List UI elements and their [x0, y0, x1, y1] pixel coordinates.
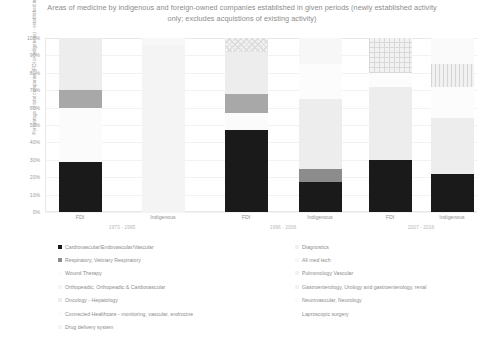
bar-segment[interactable]	[59, 38, 102, 90]
legend-swatch-icon	[58, 271, 62, 275]
legend-swatch-icon	[58, 298, 62, 302]
bar-segment[interactable]	[225, 130, 268, 212]
legend-swatch-icon	[295, 271, 299, 275]
legend-swatch-icon	[58, 312, 62, 316]
bar-segment[interactable]	[59, 108, 102, 162]
chart-legend: Cardiovascular/Endovascular/VascularResp…	[58, 240, 478, 336]
legend-label: Respiratory, Vetinary Respiratory	[65, 257, 141, 263]
legend-label: Diagnostics	[302, 244, 329, 250]
legend-item[interactable]: Drug delivery system	[58, 320, 298, 333]
y-tick-label: 100%	[27, 35, 40, 41]
legend-swatch-icon	[295, 245, 299, 249]
legend-item[interactable]: Neurovascular, Neurology	[295, 294, 484, 307]
legend-label: Drug delivery system	[65, 324, 113, 330]
legend-label: Orthopeadic, Orthopeadic & Cardiovascula…	[65, 284, 165, 290]
y-tick-label: 50%	[30, 122, 40, 128]
legend-item[interactable]: Wound Therapy	[58, 267, 298, 280]
legend-label: Neurovascular, Neurology	[302, 297, 362, 303]
legend-column-right: DiagnosticsAll med techPulmonology Vascu…	[295, 240, 484, 320]
bar-segment[interactable]	[431, 118, 474, 174]
y-tick-label: 80%	[30, 70, 40, 76]
bar-segment[interactable]	[299, 99, 342, 169]
legend-column-left: Cardiovascular/Endovascular/VascularResp…	[58, 240, 298, 334]
x-tick-label: Indigenous	[417, 214, 484, 220]
x-axis-period-labels: 1973 - 19951996 - 20062007 - 2016	[45, 224, 477, 236]
legend-swatch-icon	[58, 325, 62, 329]
x-tick-label: Indigenous	[128, 214, 198, 220]
bar-stack[interactable]	[59, 38, 102, 212]
legend-label: All med tech	[302, 257, 331, 263]
y-axis-ticks: 0%10%20%30%40%50%60%70%80%90%100%	[0, 38, 44, 212]
legend-swatch-icon	[58, 245, 62, 249]
bar-segment[interactable]	[369, 87, 412, 160]
bar-segment[interactable]	[299, 182, 342, 212]
bar-segment[interactable]	[225, 52, 268, 94]
legend-swatch-icon	[295, 258, 299, 262]
legend-item[interactable]: Diagnostics	[295, 240, 484, 253]
x-tick-label: FDI	[355, 214, 425, 220]
bar-segment[interactable]	[369, 73, 412, 87]
y-tick-label: 0%	[33, 209, 40, 215]
legend-item[interactable]: Connected Healthcare - monitoring, vascu…	[58, 307, 298, 320]
bar-segment[interactable]	[369, 38, 412, 73]
grid-line	[45, 212, 477, 213]
legend-label: Connected Healthcare - monitoring, vascu…	[65, 311, 193, 317]
plot-area	[45, 38, 477, 212]
bar-segment[interactable]	[59, 162, 102, 212]
bar-segment[interactable]	[142, 38, 185, 45]
period-label: 1973 - 1995	[77, 224, 167, 230]
period-label: 1996 - 2006	[238, 224, 328, 230]
legend-label: Gastroenterology, Urology and gastroente…	[302, 284, 426, 290]
legend-swatch-icon	[295, 312, 299, 316]
bar-segment[interactable]	[225, 113, 268, 130]
bar-stack[interactable]	[431, 38, 474, 212]
legend-label: Laproscopic surgery	[302, 311, 349, 317]
legend-label: Oncology - Hepatology	[65, 297, 118, 303]
y-tick-label: 90%	[30, 52, 40, 58]
chart-container: Areas of medicine by indigenous and fore…	[0, 0, 484, 342]
bar-series-group	[45, 38, 477, 212]
legend-swatch-icon	[58, 285, 62, 289]
x-tick-label: FDI	[45, 214, 115, 220]
bar-segment[interactable]	[431, 174, 474, 212]
period-label: 2007 - 2016	[376, 224, 466, 230]
bar-segment[interactable]	[225, 38, 268, 52]
y-tick-label: 10%	[30, 192, 40, 198]
x-tick-label: FDI	[211, 214, 281, 220]
bar-stack[interactable]	[369, 38, 412, 212]
bar-stack[interactable]	[299, 38, 342, 212]
y-tick-label: 30%	[30, 157, 40, 163]
bar-segment[interactable]	[369, 160, 412, 212]
y-tick-label: 40%	[30, 139, 40, 145]
legend-item[interactable]: Laproscopic surgery	[295, 307, 484, 320]
legend-item[interactable]: Cardiovascular/Endovascular/Vascular	[58, 240, 298, 253]
legend-item[interactable]: Gastroenterology, Urology and gastroente…	[295, 280, 484, 293]
bar-segment[interactable]	[431, 38, 474, 64]
legend-swatch-icon	[58, 258, 62, 262]
y-tick-label: 70%	[30, 87, 40, 93]
legend-item[interactable]: Oncology - Hepatology	[58, 294, 298, 307]
x-tick-label: Indigenous	[285, 214, 355, 220]
legend-swatch-icon	[295, 285, 299, 289]
legend-label: Wound Therapy	[65, 270, 102, 276]
y-tick-label: 20%	[30, 174, 40, 180]
bar-segment[interactable]	[142, 45, 185, 212]
bar-segment[interactable]	[431, 87, 474, 118]
legend-item[interactable]: Respiratory, Vetinary Respiratory	[58, 253, 298, 266]
bar-stack[interactable]	[142, 38, 185, 212]
bar-stack[interactable]	[225, 38, 268, 212]
bar-segment[interactable]	[299, 38, 342, 64]
bar-segment[interactable]	[225, 94, 268, 113]
legend-item[interactable]: Pulmonology Vascular	[295, 267, 484, 280]
y-tick-label: 60%	[30, 105, 40, 111]
chart-title: Areas of medicine by indigenous and fore…	[42, 2, 442, 24]
bar-segment[interactable]	[299, 64, 342, 99]
bar-segment[interactable]	[431, 64, 474, 87]
legend-label: Pulmonology Vascular	[302, 270, 353, 276]
legend-item[interactable]: Orthopeadic, Orthopeadic & Cardiovascula…	[58, 280, 298, 293]
legend-swatch-icon	[295, 298, 299, 302]
bar-segment[interactable]	[299, 169, 342, 183]
bar-segment[interactable]	[59, 90, 102, 107]
legend-item[interactable]: All med tech	[295, 253, 484, 266]
legend-label: Cardiovascular/Endovascular/Vascular	[65, 244, 154, 250]
